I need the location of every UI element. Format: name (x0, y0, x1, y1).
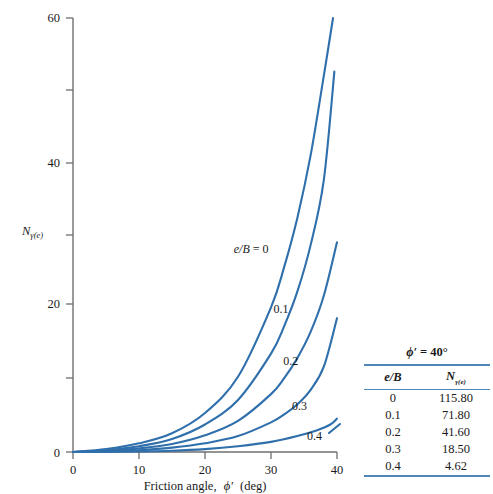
curve-series-2 (73, 242, 337, 452)
x-tick-label-40: 40 (331, 463, 344, 477)
table-title-value: 40° (430, 345, 448, 359)
table-cell-ngamma: 18.50 (422, 441, 490, 458)
table-row: 0.318.50 (364, 441, 490, 458)
curve-series-0 (73, 18, 333, 452)
table-cell-eb: 0.4 (364, 458, 422, 475)
y-tick-label-60: 60 (48, 11, 61, 25)
table-bottom-rule (364, 475, 490, 479)
chart-plot-area: 60 40 20 0 0 10 20 30 40 Friction angle,… (0, 0, 360, 494)
table-cell-ngamma: 71.80 (422, 407, 490, 424)
curve-label-0: e/B= 0 (234, 242, 269, 256)
table-cell-eb: 0.3 (364, 441, 422, 458)
data-table: ϕ′ = 40° e/B Nγ(e) 0115.800.171.800.241.… (364, 345, 490, 479)
x-tick-label-20: 20 (199, 463, 212, 477)
curve-series-3 (73, 318, 337, 452)
x-tick-label-10: 10 (133, 463, 146, 477)
table-row: 0.171.80 (364, 407, 490, 424)
table-row: 0115.80 (364, 389, 490, 407)
table-header-row: e/B Nγ(e) (364, 365, 490, 389)
y-tick-label-0: 0 (54, 446, 60, 460)
table-header-ngamma-main: N (446, 369, 455, 383)
y-axis-ticks (66, 18, 73, 452)
svg-text:Friction angle, ϕ′: Friction angle, ϕ′ (deg) (144, 479, 267, 493)
curve-label-3: 0.3 (292, 399, 307, 413)
table-cell-ngamma: 4.62 (422, 458, 490, 475)
curve-label-2: 0.2 (283, 354, 298, 368)
table-header-ngamma-sub: γ(e) (455, 378, 466, 386)
x-axis-title: Friction angle, ϕ′ (deg) (144, 479, 267, 493)
table-element: e/B Nγ(e) 0115.800.171.800.241.600.318.5… (364, 364, 490, 475)
figure-container: 60 40 20 0 0 10 20 30 40 Friction angle,… (0, 0, 493, 494)
y-axis-title-sub: γ(e) (30, 230, 43, 240)
table-title-symbol: ϕ′ (406, 345, 417, 359)
table-body: 0115.800.171.800.241.600.318.500.44.62 (364, 389, 490, 475)
table-row: 0.44.62 (364, 458, 490, 475)
curve-group (73, 18, 337, 452)
table-cell-eb: 0 (364, 389, 422, 407)
y-tick-label-40: 40 (48, 156, 61, 170)
x-tick-label-30: 30 (265, 463, 278, 477)
curve-label-4: 0.4 (307, 429, 322, 443)
table-cell-eb: 0.2 (364, 424, 422, 441)
curve-series-1 (73, 72, 334, 452)
table-row: 0.241.60 (364, 424, 490, 441)
table-title: ϕ′ = 40° (364, 345, 490, 364)
curve-label-1: 0.1 (273, 302, 288, 316)
table-cell-ngamma: 41.60 (422, 424, 490, 441)
x-tick-label-0: 0 (70, 463, 76, 477)
table-header-eb: e/B (364, 365, 422, 389)
svg-text:Nγ(e): Nγ(e) (21, 224, 43, 240)
y-axis-title: Nγ(e) (21, 224, 43, 240)
x-axis-title-symbol: ϕ′ (224, 479, 233, 493)
y-tick-label-20: 20 (48, 297, 61, 311)
table-header-ngamma: Nγ(e) (422, 365, 490, 389)
table-cell-eb: 0.1 (364, 407, 422, 424)
x-axis-title-unit: (deg) (240, 479, 266, 493)
x-axis-ticks (73, 452, 337, 459)
table-title-rel: = (420, 345, 427, 359)
x-axis-title-prefix: Friction angle, (144, 479, 217, 493)
chart-svg: 60 40 20 0 0 10 20 30 40 Friction angle,… (0, 0, 360, 494)
table-cell-ngamma: 115.80 (422, 389, 490, 407)
